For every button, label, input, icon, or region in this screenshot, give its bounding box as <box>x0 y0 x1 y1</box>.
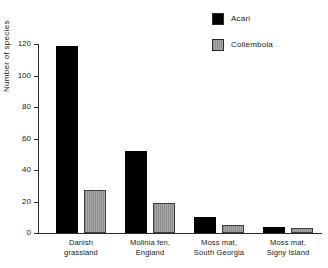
bar-acari-moss-mat-south-georgia <box>194 217 216 233</box>
y-tick-40: 40 <box>34 170 38 171</box>
x-category-line2: Signy Island <box>240 248 328 258</box>
bar-chart-figure: Acari Collembola Number of species 0 20 … <box>0 0 328 268</box>
y-tick-80: 80 <box>34 107 38 108</box>
plot-area: 0 20 40 60 80 100 120 Danish g <box>38 44 322 233</box>
bar-collembola-molinia-fen <box>153 203 175 233</box>
y-tick-label-120: 120 <box>18 38 31 49</box>
y-tick-100: 100 <box>34 76 38 77</box>
y-tick-0: 0 <box>34 233 38 234</box>
legend-item-acari: Acari <box>212 12 273 25</box>
legend-label-acari: Acari <box>231 14 250 24</box>
y-tick-label-40: 40 <box>22 164 31 175</box>
y-axis-title: Number of species <box>2 0 11 92</box>
bar-collembola-moss-mat-signy-island <box>291 228 313 233</box>
x-category-line1: Moss mat, <box>240 238 328 248</box>
y-tick-20: 20 <box>34 202 38 203</box>
y-tick-label-0: 0 <box>27 227 31 238</box>
bar-acari-danish-grassland <box>56 46 78 233</box>
y-tick-label-80: 80 <box>22 101 31 112</box>
y-tick-label-100: 100 <box>18 70 31 81</box>
y-tick-60: 60 <box>34 139 38 140</box>
bar-acari-moss-mat-signy-island <box>263 227 285 233</box>
bar-collembola-moss-mat-south-georgia <box>222 225 244 233</box>
x-category-label-moss-mat-signy-island: Moss mat, Signy Island <box>240 238 328 258</box>
black-square-icon <box>212 13 224 25</box>
y-tick-label-20: 20 <box>22 196 31 207</box>
y-tick-label-60: 60 <box>22 133 31 144</box>
x-axis-line <box>38 233 322 234</box>
y-axis-line <box>38 44 39 233</box>
y-tick-120: 120 <box>34 44 38 45</box>
bar-acari-molinia-fen <box>125 151 147 233</box>
bar-collembola-danish-grassland <box>84 190 106 233</box>
